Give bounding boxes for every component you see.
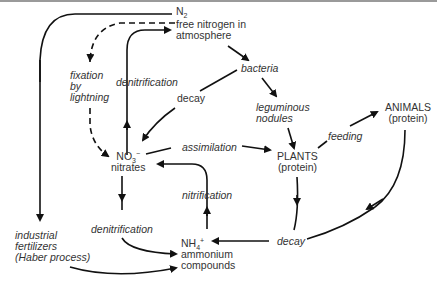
node-nodules: leguminous nodules (256, 102, 310, 124)
arrow-feeding-to-animals (350, 112, 377, 126)
ammonium-line3: compounds (181, 260, 235, 271)
node-nitrates: NO3− nitrates (111, 151, 145, 173)
node-atmosphere: free nitrogen in atmosphere (176, 19, 246, 41)
line-animals-decay (375, 130, 405, 207)
node-plants: PLANTS (protein) (277, 151, 318, 173)
node-industrial-fertilizers: industrial fertilizers (Haber process) (15, 230, 90, 263)
arrow-denitrification-up (127, 30, 170, 155)
process-decay-bottom: decay (277, 236, 305, 247)
animals-line2: (protein) (385, 113, 431, 124)
nitrates-superscript: − (136, 150, 140, 157)
nitrates-line2: nitrates (111, 162, 145, 173)
process-feeding: feeding (328, 131, 362, 142)
arrow-bacteria-to-nodules (262, 78, 276, 96)
process-denitrification-down: denitrification (91, 224, 153, 235)
n2-formula: N (176, 5, 184, 17)
line-nitrates-assimilation (146, 148, 171, 154)
arrow-denitrification-to-ammonium (122, 238, 176, 254)
line-plants-feeding (318, 141, 327, 148)
arrow-assimilation-to-plants (242, 146, 270, 150)
arrow-atmosphere-to-bacteria (228, 46, 248, 60)
process-fixation: fixation by lightning (70, 70, 109, 103)
atmosphere-line2: atmosphere (176, 30, 246, 41)
node-bacteria: bacteria (241, 63, 278, 74)
process-assimilation: assimilation (182, 142, 237, 153)
node-ammonium: NH4+ ammonium compounds (181, 238, 235, 271)
process-decay-top: decay (177, 93, 205, 104)
arrow-nodules-to-plants (288, 128, 294, 148)
fixation-line3: lightning (70, 92, 109, 103)
process-denitrification-up: denitrification (116, 77, 178, 88)
industrial-line3: (Haber process) (15, 252, 90, 263)
ammonium-superscript: + (200, 237, 204, 244)
node-n2: N2 (176, 6, 188, 17)
nodules-line2: nodules (256, 113, 310, 124)
arrow-fixation-top (90, 23, 175, 60)
arrow-industrial-to-ammonium (70, 267, 176, 274)
arrow-decay-to-nitrates (143, 108, 175, 140)
line-bacteria-decay (200, 70, 237, 91)
plants-line2: (protein) (277, 162, 318, 173)
node-animals: ANIMALS (protein) (385, 102, 431, 124)
process-nitrification: nitrification (182, 190, 232, 201)
arrow-fixation-to-nitrates (90, 108, 108, 156)
